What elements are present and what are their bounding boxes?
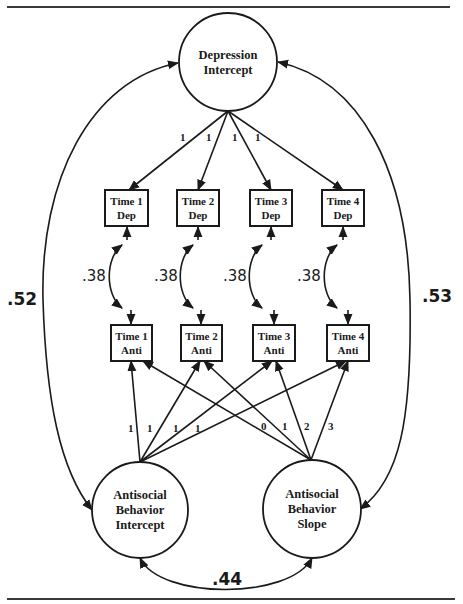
residual-corr-label-time1: .38 (82, 267, 106, 285)
loading-dep-time4 (228, 111, 343, 190)
residual-corr-label-time2: .38 (154, 267, 178, 285)
box-label-line: Anti (338, 344, 359, 356)
residual-corr-label-time4: .38 (297, 267, 321, 285)
loading-label-dep-time4: 1 (255, 131, 261, 143)
loading-intercept-time1 (131, 361, 140, 462)
loading-slope-time3 (276, 361, 311, 460)
box-label-line: Anti (264, 344, 285, 356)
box-label-line: Time 4 (327, 195, 360, 207)
loading-label-dep-time1: 1 (180, 131, 186, 143)
latent-label-line: Intercept (115, 518, 165, 532)
latent-label-line: Antisocial (113, 488, 167, 502)
residual-corr-time1 (109, 245, 122, 308)
box-label-line: Dep (117, 209, 136, 221)
factor-corr-label-dep-slope: .53 (422, 286, 452, 306)
loading-slope-time2 (204, 361, 311, 460)
latent-label-line: Depression (199, 48, 258, 62)
loading-intercept-time3 (140, 361, 272, 462)
observed-dep-time1: Time 1 Dep (105, 190, 148, 226)
latent-label-line: Slope (297, 517, 327, 531)
latent-depression-intercept: Depression Intercept (179, 13, 277, 111)
loading-label-dep-time2: 1 (206, 131, 212, 143)
loading-label-intercept-time4: 1 (195, 422, 201, 434)
box-label-line: Time 1 (110, 195, 143, 207)
loading-label-slope-time2: 1 (282, 420, 288, 432)
box-label-line: Time 2 (182, 195, 215, 207)
latent-antisocial-slope: Antisocial Behavior Slope (263, 460, 361, 558)
observed-anti-time4: Time 4 Anti (327, 325, 369, 361)
loading-label-intercept-time1: 1 (128, 422, 134, 434)
corr-arc-dep-anti-slope (278, 62, 410, 509)
observed-anti-time1: Time 1 Anti (111, 325, 152, 361)
latent-label-line: Antisocial (285, 487, 339, 501)
latent-antisocial-intercept: Antisocial Behavior Intercept (92, 462, 188, 558)
residual-corr-time4 (324, 245, 337, 308)
observed-anti-time3: Time 3 Anti (253, 325, 295, 361)
latent-label-line: Behavior (288, 502, 337, 516)
factor-corr-label-intercept-slope: .44 (212, 569, 242, 589)
residual-corr-time3 (249, 245, 262, 308)
loading-label-intercept-time3: 1 (173, 422, 179, 434)
box-label-line: Time 4 (332, 330, 365, 342)
box-label-line: Time 3 (258, 330, 291, 342)
sem-path-diagram: Depression Intercept Antisocial Behavior… (0, 0, 463, 604)
observed-dep-time2: Time 2 Dep (177, 190, 219, 226)
latent-label-line: Behavior (116, 503, 165, 517)
observed-anti-time2: Time 2 Anti (181, 325, 222, 361)
box-label-line: Dep (189, 209, 208, 221)
residual-corr-time2 (180, 245, 193, 308)
box-label-line: Dep (334, 209, 353, 221)
latent-label-line: Intercept (203, 63, 253, 77)
loading-slope-time1 (143, 361, 311, 460)
loading-label-intercept-time2: 1 (147, 422, 153, 434)
observed-dep-time3: Time 3 Dep (250, 190, 292, 226)
factor-corr-label-dep-intercept: .52 (7, 289, 37, 309)
box-label-line: Time 3 (255, 195, 288, 207)
loading-label-slope-time3: 2 (304, 420, 310, 432)
box-label-line: Anti (121, 344, 142, 356)
box-label-line: Anti (191, 344, 212, 356)
observed-dep-time4: Time 4 Dep (322, 190, 364, 226)
residual-corr-label-time3: .38 (223, 267, 247, 285)
box-label-line: Time 1 (115, 330, 148, 342)
box-label-line: Time 2 (185, 330, 218, 342)
loading-label-dep-time3: 1 (232, 131, 238, 143)
loading-dep-time3 (228, 111, 271, 190)
loading-label-slope-time1: 0 (261, 420, 267, 432)
loading-label-slope-time4: 3 (328, 420, 334, 432)
box-label-line: Dep (262, 209, 281, 221)
